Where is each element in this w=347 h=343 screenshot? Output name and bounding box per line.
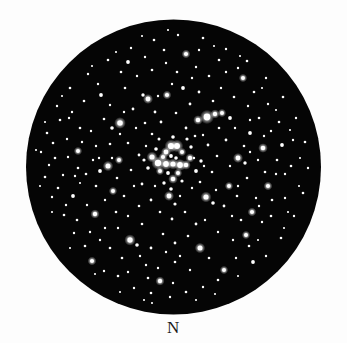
star-point <box>81 141 83 143</box>
star-point <box>52 142 55 145</box>
star-point <box>177 34 179 36</box>
star-point <box>117 120 123 126</box>
star-point <box>250 210 254 214</box>
star-point <box>167 29 169 31</box>
star-point <box>225 71 227 73</box>
star-point <box>145 145 147 147</box>
star-point <box>199 181 202 184</box>
star-point <box>92 159 94 161</box>
star-point <box>158 138 161 141</box>
star-point <box>104 199 106 201</box>
star-point <box>127 142 130 145</box>
star-point <box>198 246 203 251</box>
star-point <box>194 169 198 173</box>
star-point <box>227 184 231 188</box>
star-point <box>189 103 192 106</box>
star-point <box>98 169 102 173</box>
star-point <box>146 166 150 170</box>
star-point <box>74 175 76 177</box>
star-point <box>237 67 239 69</box>
star-point <box>265 255 267 257</box>
star-point <box>133 287 135 289</box>
star-point <box>77 167 80 170</box>
star-point <box>126 60 130 64</box>
star-point <box>71 194 75 198</box>
star-point <box>289 129 291 131</box>
star-point <box>284 197 286 199</box>
star-point <box>298 185 300 187</box>
star-point <box>181 86 185 90</box>
eyepiece-field-container <box>0 0 347 317</box>
star-point <box>51 196 53 198</box>
star-point <box>246 60 249 63</box>
star-point <box>225 48 227 50</box>
star-point <box>159 211 162 214</box>
star-point <box>217 279 220 282</box>
star-point <box>147 277 150 280</box>
star-point <box>110 126 114 130</box>
star-point <box>211 201 215 205</box>
star-point <box>145 264 147 266</box>
star-point <box>213 112 217 116</box>
star-point <box>62 174 64 176</box>
star-point <box>95 145 97 147</box>
star-point <box>171 218 174 221</box>
star-point <box>153 39 156 42</box>
star-point <box>293 215 295 217</box>
star-point <box>169 154 173 158</box>
star-point <box>107 59 110 62</box>
star-point <box>136 75 138 77</box>
star-point <box>179 195 181 197</box>
star-point <box>249 119 251 121</box>
star-point <box>59 119 62 122</box>
star-point <box>94 273 96 275</box>
star-point <box>212 100 215 103</box>
star-point <box>236 156 241 161</box>
star-point <box>248 131 252 135</box>
star-point <box>241 76 245 80</box>
star-point <box>191 77 193 79</box>
star-point <box>98 157 100 159</box>
star-point <box>158 279 162 283</box>
star-point <box>111 189 115 193</box>
star-point <box>166 171 170 175</box>
star-point <box>123 111 125 113</box>
star-point <box>139 255 141 257</box>
star-point <box>165 251 167 253</box>
star-point <box>150 292 153 295</box>
star-point <box>79 127 82 130</box>
star-point <box>149 154 154 159</box>
star-point <box>103 270 105 272</box>
star-point <box>236 195 239 198</box>
star-point <box>218 127 221 130</box>
star-point <box>195 299 197 301</box>
star-point <box>214 293 216 295</box>
star-point <box>117 227 119 229</box>
star-point <box>85 173 88 176</box>
star-point <box>109 247 112 250</box>
star-point <box>217 231 219 233</box>
star-point <box>196 118 201 123</box>
star-point <box>299 157 301 159</box>
star-point <box>222 268 226 272</box>
star-field-figure: N <box>0 0 347 343</box>
star-point <box>150 199 153 202</box>
star-point <box>124 87 127 90</box>
star-point <box>99 93 103 97</box>
star-point <box>104 227 106 229</box>
star-point <box>73 232 75 234</box>
star-point <box>292 139 294 141</box>
star-point <box>39 185 41 187</box>
star-point <box>106 164 111 169</box>
star-point <box>99 239 101 241</box>
star-point <box>195 66 197 68</box>
star-point <box>51 211 53 213</box>
star-point <box>239 55 241 57</box>
star-point <box>154 111 157 114</box>
star-point <box>185 127 188 130</box>
star-field-canvas <box>0 0 347 317</box>
star-point <box>160 121 163 124</box>
star-point <box>283 227 285 229</box>
star-point <box>185 137 188 140</box>
star-point <box>127 237 132 242</box>
